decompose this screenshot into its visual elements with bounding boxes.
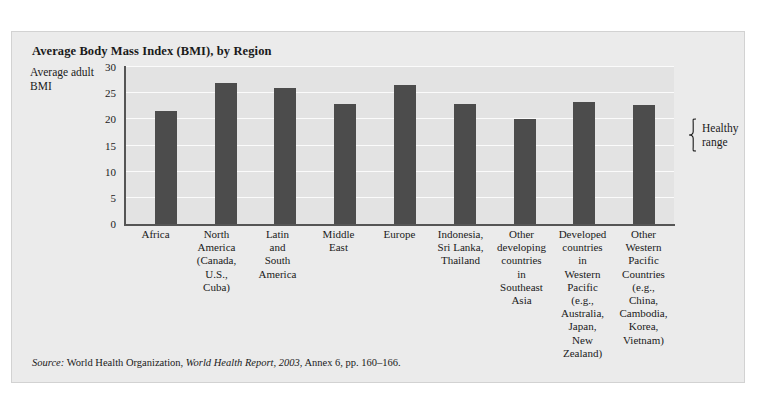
bar-slot [495,67,555,224]
bar [334,104,356,224]
healthy-range-label: Healthy range [702,121,738,149]
source-detail: Annex 6, pp. 160–166. [304,357,400,368]
figure-card: Average Body Mass Index (BMI), by Region… [11,31,745,383]
bars-layer [136,67,674,224]
x-axis-category-label: LatinandSouthAmerica [247,228,308,360]
x-axis-line [124,224,675,226]
bar-slot [136,67,196,224]
bar [633,105,655,224]
bar-slot [315,67,375,224]
y-tick-label: 20 [105,113,116,125]
bar [274,88,296,224]
bar [394,85,416,224]
x-axis-category-label: OtherdevelopingcountriesinSoutheastAsia [491,228,552,360]
bar-slot [554,67,614,224]
y-tick-label: 5 [111,192,117,204]
x-axis-category-label: NorthAmerica(Canada,U.S.,Cuba) [186,228,247,360]
y-axis-title: Average adult BMI [30,65,110,93]
bar [215,83,237,224]
bar-slot [196,67,256,224]
bar-slot [375,67,435,224]
bar [573,102,595,224]
y-tick-label: 10 [105,166,116,178]
source-prefix: Source: [32,357,64,368]
bar [514,119,536,224]
curly-brace-icon [688,118,697,152]
bar [454,104,476,224]
y-tick-label: 15 [105,140,116,152]
y-tick-label: 25 [105,87,116,99]
x-axis-category-label: Europe [369,228,430,360]
x-axis-category-label: Indonesia,Sri Lanka,Thailand [430,228,491,360]
healthy-range-annotation: Healthy range [688,118,738,152]
x-axis-category-label: DevelopedcountriesinWesternPacific(e.g.,… [552,228,613,360]
x-axis-category-labels: AfricaNorthAmerica(Canada,U.S.,Cuba)Lati… [125,228,674,360]
plot-background [125,67,674,224]
bar-slot [435,67,495,224]
chart-title: Average Body Mass Index (BMI), by Region [32,44,272,59]
x-axis-category-label: OtherWesternPacificCountries(e.g.,China,… [613,228,674,360]
y-tick-label: 30 [105,61,116,73]
x-axis-category-label: Africa [125,228,186,360]
bar [155,111,177,224]
x-axis-category-label: MiddleEast [308,228,369,360]
chart-plot: 051015202530 [114,67,674,224]
y-axis-line [124,66,126,224]
source-report-title: World Health Report, 2003, [186,357,303,368]
source-publisher: World Health Organization, [67,357,183,368]
y-tick-label: 0 [111,218,117,230]
bar-slot [614,67,674,224]
bar-slot [256,67,316,224]
source-note: Source: World Health Organization, World… [32,357,401,368]
